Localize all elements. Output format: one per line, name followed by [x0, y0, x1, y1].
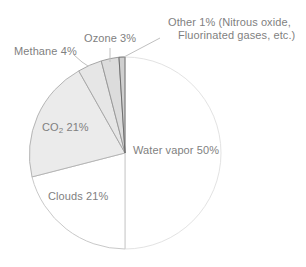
pie-label-methane: Methane 4% [14, 45, 77, 58]
pie-label-other: Other 1% (Nitrous oxide, Fluorinated gas… [168, 16, 298, 42]
pie-label-co2: CO2 21% [42, 121, 89, 137]
pie-label-other-line1: Other 1% (Nitrous oxide, [168, 16, 291, 28]
pie-label-clouds: Clouds 21% [48, 190, 108, 203]
pie-label-ozone-text: Ozone 3% [84, 32, 136, 44]
pie-label-other-line2: Fluorinated gases, etc.) [168, 29, 298, 42]
pie-label-methane-text: Methane 4% [14, 45, 77, 57]
pie-chart-figure: Other 1% (Nitrous oxide, Fluorinated gas… [0, 0, 306, 267]
pie-label-co2-suffix: 21% [63, 121, 88, 133]
pie-label-water-vapor: Water vapor 50% [133, 144, 219, 157]
pie-label-co2-prefix: CO [42, 121, 59, 133]
pie-label-water-vapor-text: Water vapor 50% [133, 144, 219, 156]
pie-label-ozone: Ozone 3% [84, 32, 136, 45]
pie-label-clouds-text: Clouds 21% [48, 190, 108, 202]
